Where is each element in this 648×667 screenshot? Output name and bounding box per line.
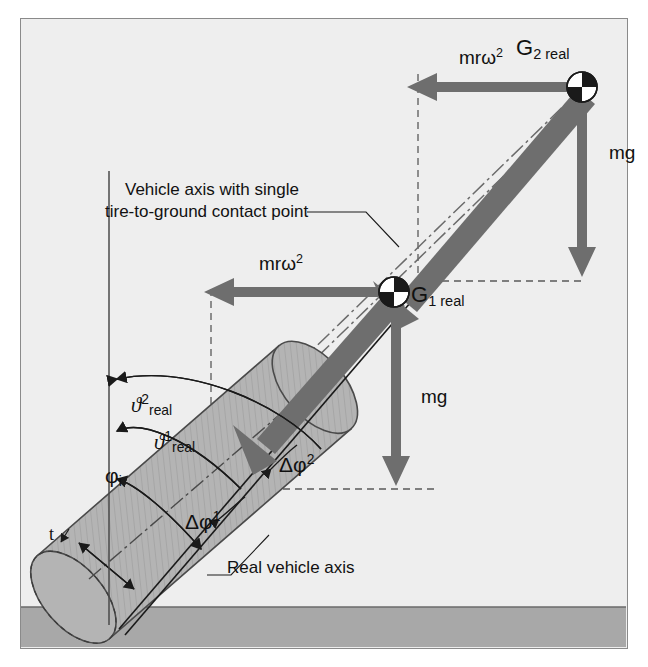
mass-center-symbol-G1real bbox=[379, 277, 409, 307]
force-label-centrifugal-upper: mrω2 bbox=[459, 47, 503, 67]
mass-center-label-G2real: G2 real bbox=[516, 37, 569, 61]
thickness-label: t bbox=[49, 525, 54, 543]
mass-center-symbol-G2real bbox=[567, 72, 597, 102]
angle-label-theta2-real: ϑ2real bbox=[131, 393, 172, 418]
angle-label-delta-phi-1: Δφ1 bbox=[185, 510, 220, 532]
callout-vehicle-axis-line2: tire-to-ground contact point bbox=[105, 203, 308, 220]
angle-label-phi-i: φi bbox=[105, 465, 122, 489]
callout-real-vehicle-axis: Real vehicle axis bbox=[227, 559, 355, 576]
callout-vehicle-axis-line1: Vehicle axis with single bbox=[125, 181, 299, 198]
force-label-centrifugal-lower: mrω2 bbox=[259, 253, 303, 273]
figure-canvas: G2 real G1 real mrω2 mg mrω2 mg Vehicle … bbox=[0, 0, 648, 667]
angle-label-delta-phi-2: Δφ2 bbox=[279, 453, 314, 475]
mass-center-label-G1real: G1 real bbox=[411, 284, 464, 308]
force-arrow-centrifugal-upper bbox=[407, 73, 581, 101]
force-label-gravity-lower: mg bbox=[421, 387, 447, 406]
figure-frame: G2 real G1 real mrω2 mg mrω2 mg Vehicle … bbox=[20, 18, 628, 649]
force-label-gravity-upper: mg bbox=[609, 143, 635, 162]
diagram-svg bbox=[21, 19, 626, 647]
angle-label-theta1-real: ϑ1real bbox=[154, 430, 195, 455]
